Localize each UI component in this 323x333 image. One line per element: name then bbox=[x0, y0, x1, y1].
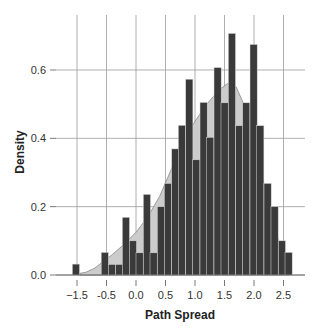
y-tick-label: 0.4 bbox=[31, 132, 46, 144]
histogram-bar bbox=[101, 252, 108, 275]
histogram-bar bbox=[236, 126, 243, 275]
x-tick-label: 0.5 bbox=[158, 289, 173, 301]
histogram-bar bbox=[221, 103, 228, 275]
histogram-bar bbox=[122, 217, 129, 275]
histogram-bar bbox=[136, 253, 143, 275]
x-tick-label: 1.5 bbox=[217, 289, 232, 301]
x-tick-label: 1.0 bbox=[187, 289, 202, 301]
histogram-bar bbox=[207, 137, 214, 275]
histogram-bar bbox=[172, 149, 179, 275]
histogram-bar bbox=[164, 183, 171, 275]
y-axis-title: Density bbox=[13, 130, 27, 174]
y-axis: 0.00.20.40.6 bbox=[31, 64, 56, 281]
x-tick-label: 2.5 bbox=[276, 289, 291, 301]
histogram-bar bbox=[108, 264, 115, 275]
histogram-bar bbox=[72, 264, 79, 275]
histogram-bar bbox=[228, 33, 235, 275]
x-axis-title: Path Spread bbox=[145, 308, 215, 322]
histogram-bar bbox=[214, 68, 221, 275]
histogram-bar bbox=[278, 241, 285, 275]
histogram-bar bbox=[285, 252, 292, 275]
histogram-bar bbox=[200, 102, 207, 275]
histogram-bar bbox=[143, 194, 150, 275]
histogram-bar bbox=[264, 183, 271, 275]
y-tick-label: 0.0 bbox=[31, 269, 46, 281]
histogram-bar bbox=[178, 125, 185, 275]
x-tick-label: -0.5 bbox=[97, 289, 116, 301]
histogram-bar bbox=[271, 207, 278, 275]
x-axis: −1.5-0.50.00.51.01.52.02.5 bbox=[56, 275, 305, 301]
histogram-bar bbox=[116, 264, 123, 275]
histogram-bar bbox=[243, 103, 250, 275]
histogram-chart: −1.5-0.50.00.51.01.52.02.5 0.00.20.40.6 … bbox=[0, 0, 323, 333]
histogram-bar bbox=[193, 160, 200, 275]
histogram-bar bbox=[186, 79, 193, 275]
histogram-bar bbox=[150, 253, 157, 275]
y-tick-label: 0.2 bbox=[31, 201, 46, 213]
x-tick-label: −1.5 bbox=[66, 289, 88, 301]
histogram-bar bbox=[129, 241, 136, 275]
histogram-bar bbox=[257, 126, 264, 275]
x-tick-label: 0.0 bbox=[128, 289, 143, 301]
histogram-bar bbox=[250, 44, 257, 275]
histogram-bar bbox=[157, 207, 164, 275]
x-tick-label: 2.0 bbox=[246, 289, 261, 301]
y-tick-label: 0.6 bbox=[31, 64, 46, 76]
